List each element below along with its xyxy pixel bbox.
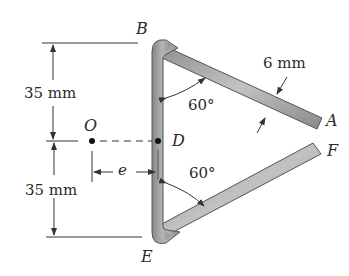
label-lower-height: 35 mm: [25, 183, 77, 198]
label-lower-angle: 60°: [189, 166, 216, 181]
thin-walled-section-diagram: B A F D O E 35 mm 35 mm 6 mm e 60° 60°: [0, 0, 349, 276]
label-point-f: F: [327, 143, 338, 159]
thickness-arrow-top: [277, 77, 287, 94]
label-point-e: E: [141, 249, 153, 265]
label-thickness: 6 mm: [263, 56, 306, 71]
lower-angle-arc: [166, 183, 204, 206]
label-point-d: D: [172, 133, 185, 149]
label-upper-height: 35 mm: [24, 86, 76, 101]
label-point-b: B: [136, 21, 148, 37]
label-point-o: O: [84, 118, 97, 134]
point-o-dot: [89, 138, 95, 144]
label-eccentricity: e: [118, 163, 127, 178]
label-upper-angle: 60°: [188, 98, 215, 113]
thickness-arrow-bottom: [257, 118, 265, 133]
point-d-dot: [155, 138, 161, 144]
label-point-a: A: [326, 113, 338, 129]
upper-angle-arc: [166, 78, 205, 98]
